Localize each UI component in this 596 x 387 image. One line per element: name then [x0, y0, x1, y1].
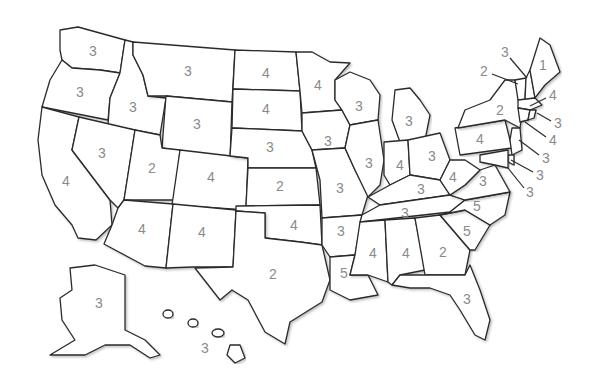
label-ma: 4 [549, 87, 557, 103]
label-mn: 4 [314, 77, 322, 93]
label-nc: 5 [473, 198, 481, 214]
label-ny: 2 [496, 102, 504, 118]
label-tn: 3 [401, 205, 409, 221]
label-nh: 2 [480, 63, 488, 79]
label-ok: 4 [290, 217, 298, 233]
label-nv: 3 [98, 145, 106, 161]
label-wi: 3 [355, 98, 363, 114]
label-ak: 3 [95, 295, 103, 311]
us-states-map: 3343333244444324243335333433344235534421… [0, 0, 596, 387]
label-wa: 3 [89, 43, 97, 59]
leader-line-md [508, 168, 524, 188]
state-hi-big-island[interactable] [227, 345, 245, 363]
label-al: 4 [402, 245, 410, 261]
label-mo: 3 [336, 180, 344, 196]
label-la: 5 [340, 265, 348, 281]
state-ny[interactable] [458, 80, 522, 128]
state-ak[interactable] [50, 265, 160, 358]
label-ia: 3 [324, 133, 332, 149]
label-ar: 3 [337, 223, 345, 239]
label-oh: 3 [428, 148, 436, 164]
label-ca: 4 [62, 173, 70, 189]
state-hi-oahu[interactable] [188, 319, 198, 327]
leader-line-de [511, 160, 533, 172]
label-ms: 4 [369, 245, 377, 261]
label-sd: 4 [262, 101, 270, 117]
label-me: 1 [539, 57, 547, 73]
state-fl[interactable] [392, 265, 490, 340]
label-ky: 3 [417, 181, 425, 197]
label-ut: 2 [148, 160, 156, 176]
label-de: 3 [536, 167, 544, 183]
label-id: 3 [129, 99, 137, 115]
label-tx: 2 [269, 266, 277, 282]
label-nj: 3 [542, 150, 550, 166]
state-md[interactable] [480, 150, 508, 168]
label-mt: 3 [184, 63, 192, 79]
label-va: 3 [479, 173, 487, 189]
label-fl: 3 [463, 291, 471, 307]
label-nd: 4 [262, 65, 270, 81]
leader-line-ri [537, 113, 551, 121]
label-nm: 4 [198, 224, 206, 240]
label-wy: 3 [193, 116, 201, 132]
state-ri[interactable] [528, 110, 536, 120]
label-mi: 3 [405, 113, 413, 129]
label-ct: 4 [549, 132, 557, 148]
label-ri: 3 [554, 115, 562, 131]
label-ga: 2 [439, 244, 447, 260]
state-hi-maui[interactable] [212, 329, 224, 337]
label-hi: 3 [201, 340, 209, 356]
label-az: 4 [138, 221, 146, 237]
label-md: 3 [526, 184, 534, 200]
label-wv: 4 [449, 169, 457, 185]
label-pa: 4 [476, 131, 484, 147]
label-in: 4 [396, 157, 404, 173]
label-il: 3 [365, 155, 373, 171]
leader-line-ct [525, 122, 546, 137]
label-ks: 2 [276, 178, 284, 194]
label-sc: 5 [463, 223, 471, 239]
label-ne: 3 [266, 139, 274, 155]
label-vt: 3 [501, 44, 509, 60]
label-or: 3 [76, 84, 84, 100]
label-co: 4 [207, 169, 215, 185]
state-hi-kauai[interactable] [163, 310, 173, 318]
leader-line-vt [510, 58, 527, 78]
